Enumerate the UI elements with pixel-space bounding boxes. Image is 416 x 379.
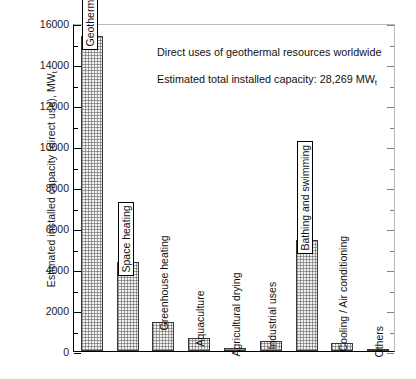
annotation-subscript: t xyxy=(375,78,377,87)
y-tick-major xyxy=(74,25,81,26)
y-tick-minor-right xyxy=(390,128,394,129)
bar-label: Geothermal heat pumps xyxy=(82,0,98,50)
y-tick-major xyxy=(74,353,81,354)
annotation-line-2-text: Estimated total installed capacity: 28,2… xyxy=(157,73,375,85)
y-tick-label: 8000 xyxy=(0,182,69,194)
y-tick-minor-right xyxy=(390,169,394,170)
bar[interactable] xyxy=(296,240,318,351)
y-tick-major-right xyxy=(387,148,394,149)
y-tick-label: 10000 xyxy=(0,141,69,153)
bar-label: Agricultural drying xyxy=(231,272,242,356)
y-tick-minor xyxy=(74,87,78,88)
y-tick-label: 16000 xyxy=(0,18,69,30)
y-tick-minor-right xyxy=(390,292,394,293)
y-tick-major-right xyxy=(387,107,394,108)
plot-area: Geothermal heat pumpsSpace heatingGreenh… xyxy=(73,24,395,352)
y-tick-minor xyxy=(74,210,78,211)
y-tick-label: 0 xyxy=(0,346,69,358)
y-tick-major-right xyxy=(387,66,394,67)
y-tick-minor-right xyxy=(390,87,394,88)
y-tick-minor xyxy=(74,333,78,334)
y-tick-minor xyxy=(74,251,78,252)
y-tick-major-right xyxy=(387,353,394,354)
bar-label: Aquaculture xyxy=(195,291,206,347)
y-tick-major-right xyxy=(387,25,394,26)
y-tick-minor-right xyxy=(390,46,394,47)
bar-label: Bathing and swimming xyxy=(297,142,313,255)
bar-label: Industrial uses xyxy=(266,282,277,350)
y-axis-title-subscript: t xyxy=(50,71,59,73)
bar-label: Cooling / Air conditioning xyxy=(338,236,349,352)
y-tick-label: 12000 xyxy=(0,100,69,112)
y-tick-label: 4000 xyxy=(0,264,69,276)
geothermal-direct-use-bar-chart: Estimated installed capacity (direct use… xyxy=(0,0,416,379)
y-tick-minor xyxy=(74,128,78,129)
y-tick-minor xyxy=(74,169,78,170)
y-tick-label: 2000 xyxy=(0,305,69,317)
annotation-line-1: Direct uses of geothermal resources worl… xyxy=(157,46,381,58)
annotation-line-2: Estimated total installed capacity: 28,2… xyxy=(157,73,377,87)
y-tick-minor-right xyxy=(390,210,394,211)
y-tick-minor xyxy=(74,292,78,293)
bar-label: Space heating xyxy=(118,202,134,276)
y-tick-label: 6000 xyxy=(0,223,69,235)
y-tick-minor-right xyxy=(390,333,394,334)
y-tick-minor-right xyxy=(390,251,394,252)
y-tick-major-right xyxy=(387,230,394,231)
y-tick-label: 14000 xyxy=(0,59,69,71)
y-tick-minor xyxy=(74,46,78,47)
bar-label: Greenhouse heating xyxy=(159,236,170,331)
bar-label: Others xyxy=(374,326,385,358)
y-tick-major-right xyxy=(387,271,394,272)
bar[interactable] xyxy=(81,36,103,351)
y-tick-major-right xyxy=(387,312,394,313)
y-tick-major-right xyxy=(387,189,394,190)
